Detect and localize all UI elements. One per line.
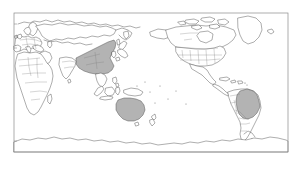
world-map-canvas [0, 0, 301, 173]
japan-kyushu [116, 57, 120, 61]
world-map-figure [0, 0, 301, 173]
tasmania [135, 122, 139, 126]
iberian-peninsula [14, 45, 21, 52]
